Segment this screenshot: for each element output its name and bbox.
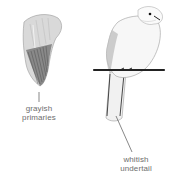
wing-illustration xyxy=(23,15,61,86)
label-line: grayish xyxy=(18,104,60,113)
label-grayish-primaries: grayish primaries xyxy=(18,104,60,122)
label-whitish-undertail: whitish undertail xyxy=(114,155,158,172)
dove-illustration xyxy=(106,7,163,121)
field-guide-figure: grayish primaries whitish undertail xyxy=(0,0,176,172)
leader-line-undertail xyxy=(116,116,132,152)
label-line: undertail xyxy=(114,164,158,172)
label-line: whitish xyxy=(114,155,158,164)
label-line: primaries xyxy=(18,113,60,122)
